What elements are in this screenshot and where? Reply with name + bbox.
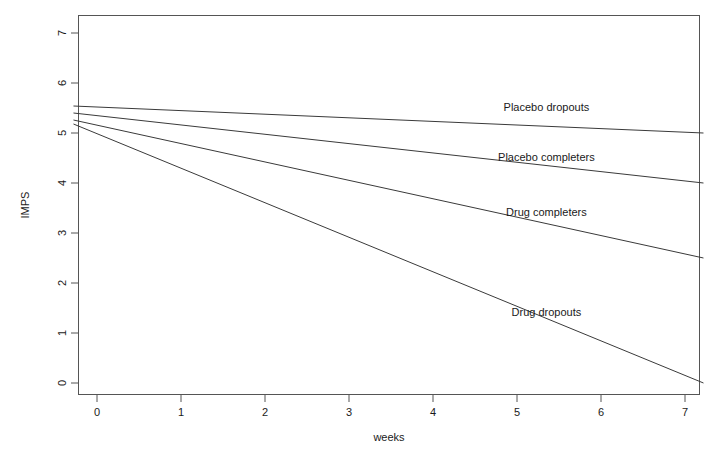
x-axis-title: weeks <box>372 431 405 443</box>
x-axis-ticks: 01234567 <box>94 395 688 418</box>
series-label: Drug dropouts <box>512 306 582 318</box>
series-label: Placebo dropouts <box>504 101 590 113</box>
series-line <box>73 106 703 133</box>
y-tick-label: 5 <box>56 130 68 136</box>
y-tick-label: 4 <box>56 180 68 186</box>
series-lines-group <box>73 106 703 383</box>
y-tick-label: 7 <box>56 30 68 36</box>
series-line <box>73 124 703 383</box>
plot-frame <box>79 16 700 395</box>
y-tick-label: 2 <box>56 280 68 286</box>
y-axis-title: IMPS <box>19 192 31 219</box>
y-tick-label: 0 <box>56 380 68 386</box>
x-tick-label: 6 <box>598 406 604 418</box>
y-tick-label: 3 <box>56 230 68 236</box>
regression-line-chart: 01234567 01234567 Placebo dropoutsPlaceb… <box>0 0 719 460</box>
series-line <box>73 120 703 258</box>
x-tick-label: 4 <box>430 406 436 418</box>
x-tick-label: 3 <box>346 406 352 418</box>
series-label: Drug completers <box>506 206 587 218</box>
x-tick-label: 5 <box>514 406 520 418</box>
series-line <box>73 113 703 183</box>
y-tick-label: 6 <box>56 80 68 86</box>
y-tick-label: 1 <box>56 330 68 336</box>
x-tick-label: 2 <box>262 406 268 418</box>
series-labels-group: Placebo dropoutsPlacebo completersDrug c… <box>498 101 595 318</box>
x-tick-label: 7 <box>682 406 688 418</box>
x-tick-label: 0 <box>94 406 100 418</box>
series-label: Placebo completers <box>498 151 595 163</box>
chart-container: 01234567 01234567 Placebo dropoutsPlaceb… <box>0 0 719 460</box>
y-axis-ticks: 01234567 <box>56 30 78 386</box>
x-tick-label: 1 <box>178 406 184 418</box>
